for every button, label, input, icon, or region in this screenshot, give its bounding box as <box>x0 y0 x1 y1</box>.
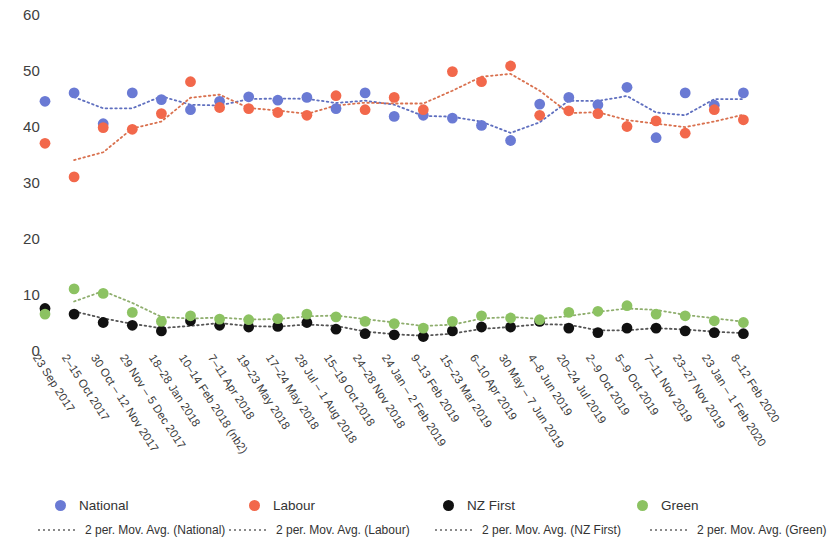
legend-trend-label: 2 per. Mov. Avg. (Labour) <box>276 523 410 537</box>
data-point-national <box>40 96 51 107</box>
data-point-labour <box>360 104 371 115</box>
data-point-green <box>680 310 691 321</box>
data-point-national <box>127 88 138 99</box>
legend-series-row: NationalLabourNZ FirstGreen <box>40 492 800 518</box>
data-point-green <box>98 288 109 299</box>
legend-item-label: Green <box>661 498 699 513</box>
data-point-green <box>593 306 604 317</box>
x-axis: 23 Sep 20172–15 Oct 201730 Oct – 12 Nov … <box>0 352 806 492</box>
legend-marker-dot-icon <box>443 500 454 511</box>
data-point-green <box>331 312 342 323</box>
data-point-labour <box>156 108 167 119</box>
x-axis-tick-label: 17–24 May 2018 <box>264 352 321 432</box>
data-point-labour <box>418 104 429 115</box>
data-point-labour <box>98 122 109 133</box>
data-point-national <box>651 132 662 143</box>
data-point-labour <box>563 105 574 116</box>
data-point-labour <box>738 114 749 125</box>
legend-dashed-line-icon <box>650 529 690 531</box>
data-point-green <box>418 323 429 334</box>
legend-item-label: National <box>79 498 129 513</box>
legend-item-label: Labour <box>273 498 315 513</box>
legend-trend-item-0[interactable]: 2 per. Mov. Avg. (National) <box>38 518 225 542</box>
data-point-nz-first <box>680 326 691 337</box>
data-point-national <box>156 94 167 105</box>
trendline-green <box>74 291 743 326</box>
data-point-labour <box>127 124 138 135</box>
legend-item-label: NZ First <box>467 498 515 513</box>
data-point-labour <box>185 76 196 87</box>
data-point-nz-first <box>622 323 633 334</box>
data-point-national <box>447 113 458 124</box>
data-point-green <box>156 316 167 327</box>
data-point-labour <box>447 66 458 77</box>
data-point-national <box>505 135 516 146</box>
data-point-nz-first <box>331 324 342 335</box>
points-group <box>40 61 749 342</box>
legend-dashed-line-icon <box>435 529 475 531</box>
data-point-labour <box>389 92 400 103</box>
legend-dashed-line-icon <box>229 529 269 531</box>
data-point-national <box>622 82 633 93</box>
data-point-labour <box>40 138 51 149</box>
data-point-green <box>185 310 196 321</box>
legend-trend-item-1[interactable]: 2 per. Mov. Avg. (Labour) <box>229 518 410 542</box>
data-point-green <box>127 307 138 318</box>
x-axis-tick-label: 19–23 May 2018 <box>235 352 292 432</box>
data-point-nz-first <box>127 320 138 331</box>
data-point-green <box>243 314 254 325</box>
data-point-labour <box>272 107 283 118</box>
data-point-green <box>651 309 662 320</box>
data-point-green <box>214 314 225 325</box>
trendline-national <box>74 96 743 133</box>
data-point-labour <box>709 104 720 115</box>
data-point-national <box>389 111 400 122</box>
data-point-labour <box>505 61 516 72</box>
legend-item-national[interactable]: National <box>55 492 129 518</box>
data-point-nz-first <box>563 323 574 334</box>
data-point-green <box>563 307 574 318</box>
data-point-green <box>709 315 720 326</box>
data-point-labour <box>622 121 633 132</box>
legend-trend-row: 2 per. Mov. Avg. (National)2 per. Mov. A… <box>0 518 806 545</box>
data-point-national <box>302 92 313 103</box>
data-point-national <box>243 91 254 102</box>
data-point-green <box>40 309 51 320</box>
legend-item-green[interactable]: Green <box>637 492 699 518</box>
legend-trend-label: 2 per. Mov. Avg. (National) <box>85 523 225 537</box>
legend-item-nz-first[interactable]: NZ First <box>443 492 515 518</box>
data-point-labour <box>680 128 691 139</box>
data-point-green <box>738 317 749 328</box>
data-point-green <box>534 314 545 325</box>
data-point-national <box>534 99 545 110</box>
legend-marker-dot-icon <box>55 500 66 511</box>
x-axis-tick-label: 23–27 Nov 2019 <box>671 352 728 431</box>
data-point-nz-first <box>156 326 167 337</box>
legend-trend-label: 2 per. Mov. Avg. (Green) <box>697 523 827 537</box>
data-point-labour <box>69 172 80 183</box>
data-point-national <box>185 104 196 115</box>
data-point-labour <box>331 90 342 101</box>
data-point-labour <box>302 110 313 121</box>
data-point-nz-first <box>447 326 458 337</box>
data-point-labour <box>651 116 662 127</box>
data-point-green <box>69 284 80 295</box>
legend-item-labour[interactable]: Labour <box>249 492 315 518</box>
data-point-nz-first <box>738 328 749 339</box>
data-point-green <box>389 318 400 329</box>
chart-legend: NationalLabourNZ FirstGreen 2 per. Mov. … <box>0 492 806 545</box>
legend-trend-item-3[interactable]: 2 per. Mov. Avg. (Green) <box>650 518 827 542</box>
trendlines-group <box>74 74 743 336</box>
data-point-national <box>680 88 691 99</box>
legend-trend-item-2[interactable]: 2 per. Mov. Avg. (NZ First) <box>435 518 621 542</box>
data-point-national <box>69 88 80 99</box>
data-point-green <box>302 309 313 320</box>
trendline-labour <box>74 74 743 160</box>
data-point-nz-first <box>69 309 80 320</box>
data-point-green <box>360 316 371 327</box>
data-point-green <box>476 310 487 321</box>
data-point-labour <box>593 108 604 119</box>
data-point-nz-first <box>593 327 604 338</box>
data-point-national <box>272 95 283 106</box>
